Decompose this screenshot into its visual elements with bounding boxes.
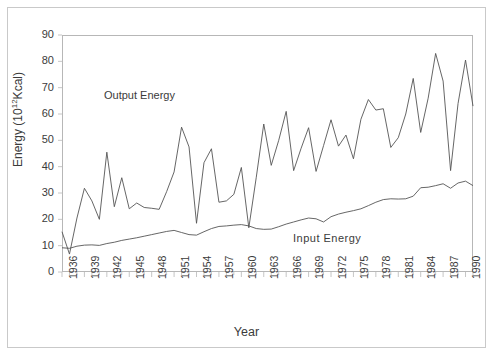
annotation-output-energy: Output Energy — [104, 89, 175, 101]
y-axis-tick-label: 70 — [24, 82, 54, 93]
x-axis-tick-label: 1939 — [89, 256, 101, 279]
x-axis-tick-label: 1984 — [425, 256, 437, 279]
y-axis-tick-label: 10 — [24, 240, 54, 251]
y-axis-tick-label: 30 — [24, 187, 54, 198]
x-axis-tick-label: 1960 — [246, 256, 258, 279]
x-axis-tick-label: 1987 — [448, 256, 460, 279]
y-axis-title-main: Energy (10 — [11, 108, 25, 167]
figure-container: 0102030405060708090 19361939194219451948… — [0, 0, 493, 355]
y-axis-title-exponent: 12 — [10, 99, 19, 108]
x-axis-tick-label: 1966 — [291, 256, 303, 279]
y-axis-tick-label: 80 — [24, 55, 54, 66]
series-line-output-energy — [62, 53, 473, 254]
x-axis-title: Year — [0, 325, 493, 339]
x-axis-tick-label: 1981 — [403, 256, 415, 279]
y-axis-tick-label: 0 — [24, 266, 54, 277]
x-axis-tick-label: 1978 — [380, 256, 392, 279]
y-axis-tick-label: 50 — [24, 134, 54, 145]
x-axis-tick-label: 1948 — [156, 256, 168, 279]
series-line-input-energy — [62, 181, 473, 248]
y-axis-title-tail: Kcal) — [11, 72, 25, 99]
y-axis-tick-label: 90 — [24, 29, 54, 40]
x-axis-tick-label: 1990 — [470, 256, 482, 279]
chart-canvas — [0, 0, 493, 355]
x-axis-tick-label: 1957 — [223, 256, 235, 279]
x-axis-tick-label: 1945 — [134, 256, 146, 279]
x-axis-tick-label: 1975 — [358, 256, 370, 279]
y-axis-tick-label: 20 — [24, 213, 54, 224]
x-axis-tick-label: 1954 — [201, 256, 213, 279]
y-axis-title: Energy (1012Kcal) — [10, 30, 25, 210]
x-axis-tick-label: 1951 — [179, 256, 191, 279]
x-axis-tick-label: 1936 — [67, 256, 79, 279]
y-axis-tick-label: 60 — [24, 108, 54, 119]
y-axis-tick-label: 40 — [24, 161, 54, 172]
annotation-input-energy: Input Energy — [293, 232, 361, 244]
x-axis-tick-label: 1969 — [313, 256, 325, 279]
x-axis-tick-label: 1972 — [336, 256, 348, 279]
x-axis-tick-label: 1942 — [111, 256, 123, 279]
x-axis-tick-label: 1963 — [268, 256, 280, 279]
